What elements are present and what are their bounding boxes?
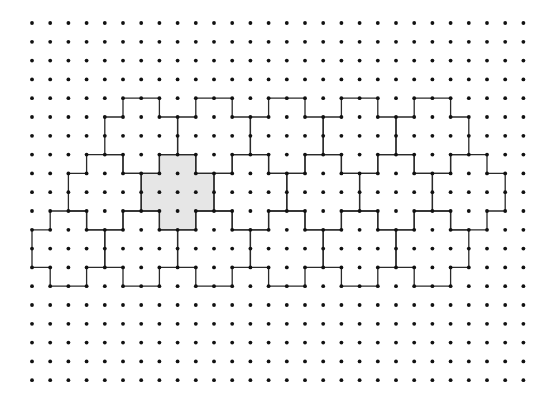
grid-dot — [503, 284, 507, 288]
grid-dot — [103, 378, 107, 382]
grid-dot — [212, 134, 216, 138]
grid-dot — [249, 153, 253, 157]
grid-dot — [376, 341, 380, 345]
grid-dot — [230, 172, 234, 176]
grid-dot — [249, 341, 253, 345]
grid-dot — [449, 341, 453, 345]
grid-dot — [358, 378, 362, 382]
grid-dot — [267, 190, 271, 194]
grid-dot — [212, 303, 216, 307]
grid-dot — [449, 172, 453, 176]
grid-dot — [158, 322, 162, 326]
grid-dot — [267, 378, 271, 382]
grid-dot — [485, 247, 489, 251]
grid-dot — [321, 96, 325, 100]
grid-dot — [303, 115, 307, 119]
grid-dot — [48, 209, 52, 213]
grid-dot — [485, 115, 489, 119]
grid-dot — [67, 284, 71, 288]
grid-dot — [340, 115, 344, 119]
grid-dot — [139, 115, 143, 119]
grid-dot — [103, 190, 107, 194]
grid-dot — [321, 360, 325, 364]
grid-dot — [103, 172, 107, 176]
grid-dot — [48, 303, 52, 307]
grid-dot — [158, 190, 162, 194]
grid-dot — [194, 228, 198, 232]
grid-dot — [321, 284, 325, 288]
grid-dot — [158, 40, 162, 44]
grid-dot — [303, 96, 307, 100]
grid-dot — [230, 209, 234, 213]
grid-dot — [249, 21, 253, 25]
grid-dot — [176, 153, 180, 157]
grid-dot — [103, 21, 107, 25]
grid-dot — [285, 134, 289, 138]
grid-dot — [522, 303, 526, 307]
grid-dot — [522, 21, 526, 25]
grid-dots — [30, 21, 525, 382]
grid-dot — [176, 172, 180, 176]
grid-dot — [249, 322, 253, 326]
grid-dot — [30, 228, 34, 232]
grid-dot — [139, 172, 143, 176]
grid-dot — [230, 322, 234, 326]
grid-dot — [303, 341, 307, 345]
grid-dot — [285, 172, 289, 176]
grid-dot — [121, 341, 125, 345]
grid-dot — [139, 378, 143, 382]
grid-dot — [194, 21, 198, 25]
grid-dot — [103, 322, 107, 326]
grid-dot — [176, 59, 180, 63]
grid-dot — [376, 78, 380, 82]
tiling-canvas — [0, 0, 546, 403]
grid-dot — [431, 134, 435, 138]
grid-dot — [267, 21, 271, 25]
grid-dot — [376, 360, 380, 364]
grid-dot — [449, 40, 453, 44]
grid-dot — [30, 59, 34, 63]
grid-dot — [176, 134, 180, 138]
grid-dot — [303, 21, 307, 25]
grid-dot — [212, 266, 216, 270]
grid-dot — [121, 59, 125, 63]
grid-dot — [303, 78, 307, 82]
grid-dot — [267, 341, 271, 345]
grid-dot — [249, 172, 253, 176]
grid-dot — [394, 322, 398, 326]
grid-dot — [449, 360, 453, 364]
grid-dot — [412, 303, 416, 307]
grid-dot — [194, 59, 198, 63]
grid-dot — [85, 115, 89, 119]
grid-dot — [321, 303, 325, 307]
grid-dot — [85, 341, 89, 345]
grid-dot — [340, 228, 344, 232]
grid-dot — [48, 115, 52, 119]
grid-dot — [321, 153, 325, 157]
grid-dot — [67, 78, 71, 82]
grid-dot — [358, 78, 362, 82]
grid-dot — [522, 190, 526, 194]
grid-dot — [121, 115, 125, 119]
grid-dot — [158, 228, 162, 232]
grid-dot — [30, 341, 34, 345]
grid-dot — [48, 341, 52, 345]
grid-dot — [85, 40, 89, 44]
grid-dot — [176, 303, 180, 307]
grid-dot — [230, 360, 234, 364]
grid-dot — [48, 40, 52, 44]
grid-dot — [321, 134, 325, 138]
grid-dot — [376, 378, 380, 382]
grid-dot — [67, 153, 71, 157]
grid-dot — [449, 266, 453, 270]
grid-dot — [285, 228, 289, 232]
grid-dot — [267, 209, 271, 213]
grid-dot — [376, 153, 380, 157]
grid-dot — [121, 266, 125, 270]
grid-dot — [103, 115, 107, 119]
grid-dot — [139, 96, 143, 100]
grid-dot — [449, 378, 453, 382]
grid-dot — [358, 190, 362, 194]
grid-dot — [158, 59, 162, 63]
grid-dot — [503, 228, 507, 232]
